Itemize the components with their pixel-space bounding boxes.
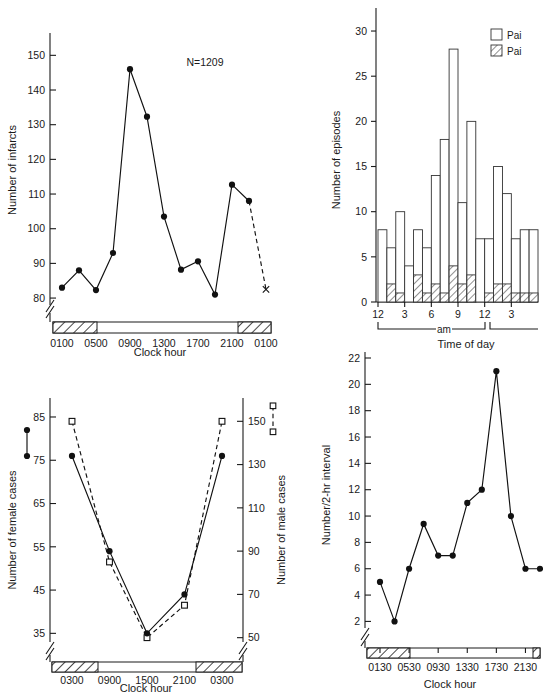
legend-label-1: Pai: [507, 30, 521, 41]
bar-hatched-segment: [511, 293, 520, 302]
y-tick-left: 35: [33, 627, 45, 639]
data-series-cases: [69, 418, 225, 640]
bar: [449, 49, 458, 302]
y-tick: 2: [354, 615, 360, 627]
x-tick: 1700: [186, 337, 210, 349]
data-point-male: [219, 418, 225, 424]
x-tick: 9: [455, 308, 461, 320]
x-tick: 0300: [210, 674, 234, 686]
data-point: [406, 566, 412, 572]
y-tick: 150: [27, 49, 45, 61]
y-tick: 20: [355, 115, 367, 127]
data-point: [493, 368, 499, 374]
data-point-female: [69, 453, 75, 459]
bar-hatched-segment: [485, 293, 494, 302]
y-tick: 8: [354, 536, 360, 548]
x-tick: 0300: [60, 674, 84, 686]
data-point-male: [69, 418, 75, 424]
x-tick: 0530: [397, 661, 421, 673]
y-tick: 90: [33, 257, 45, 269]
bar: [511, 239, 520, 302]
bar-hatched-segment: [467, 275, 476, 302]
data-point: [144, 114, 150, 120]
x-tick: 2100: [173, 674, 197, 686]
panel-infarcts-by-clock-hour: 8090100110120130140150 Number of infarct…: [0, 0, 280, 360]
x-tick: 1330: [456, 661, 480, 673]
x-tick: 2100: [220, 337, 244, 349]
y-axis-title-right: Number of male cases: [275, 474, 287, 585]
bar: [396, 212, 405, 302]
y-axis-title: Number of episodes: [330, 110, 342, 209]
data-point: [464, 500, 470, 506]
panel-cases-by-sex: 354555657585 507090110130150 Number of f…: [0, 370, 290, 696]
y-tick-right: 110: [248, 502, 265, 514]
y-tick: 80: [33, 292, 45, 304]
y-axis-title: Number/2-hr interval: [320, 445, 332, 545]
x-tick: 2130: [514, 661, 538, 673]
bar-hatched-segment: [396, 293, 405, 302]
bar-hatched-segment: [529, 293, 538, 302]
data-point-male: [182, 602, 188, 608]
legend-swatch-hatched: [491, 45, 502, 56]
y-tick-labels: 051015202530: [355, 25, 376, 308]
x-tick: 0900: [98, 674, 122, 686]
data-point: [76, 267, 82, 273]
y-tick: 10: [355, 205, 367, 217]
y-axis-title-left: Number of female cases: [6, 470, 18, 590]
day-night-bar: [367, 648, 540, 658]
y-axis-group: [361, 352, 369, 648]
infarcts-chart-svg: 8090100110120130140150 Number of infarct…: [0, 0, 280, 360]
data-point-female: [181, 591, 187, 597]
y-tick-right: 90: [248, 545, 260, 557]
y-tick: 4: [354, 589, 360, 601]
panel-episodes-by-time-of-day: 051015202530 Number of episodes 12369123…: [280, 0, 543, 360]
bar: [494, 167, 503, 302]
cases-chart-svg: 354555657585 507090110130150 Number of f…: [0, 370, 290, 696]
x-tick: 1730: [485, 661, 509, 673]
data-point: [93, 287, 99, 293]
left-axis-group: [46, 398, 54, 662]
y-tick-left: 55: [33, 541, 45, 553]
x-tick-labels: 12369123: [372, 302, 514, 320]
y-tick: 100: [27, 222, 45, 234]
data-point: [59, 285, 65, 291]
bar: [440, 139, 449, 302]
y-tick: 0: [361, 296, 367, 308]
data-point-female: [144, 630, 150, 636]
y-tick: 20: [348, 378, 360, 390]
data-point: [246, 198, 252, 204]
data-point: [522, 566, 528, 572]
y-axis-title: Number of infarcts: [6, 125, 18, 215]
bar: [378, 230, 387, 302]
y-tick: 15: [355, 160, 367, 172]
day-night-bar: [52, 662, 242, 672]
x-axis-title: Clock hour: [424, 678, 477, 690]
y-tick: 120: [27, 153, 45, 165]
x-tick: 3: [402, 308, 408, 320]
data-point: [537, 566, 543, 572]
x-tick: 0130: [368, 661, 392, 673]
period-label-am: am: [437, 324, 451, 335]
x-tick: 6: [428, 308, 434, 320]
episodes-chart-svg: 051015202530 Number of episodes 12369123…: [280, 0, 543, 360]
x-axis-title: Clock hour: [120, 682, 173, 694]
data-point: [178, 267, 184, 273]
data-point-female: [219, 453, 225, 459]
bar-hatched-segment: [449, 266, 458, 302]
bar-hatched-segment: [440, 293, 449, 302]
y-tick: 30: [355, 25, 367, 37]
y-tick-left: 65: [33, 497, 45, 509]
y-tick-left: 45: [33, 584, 45, 596]
y-tick-right: 70: [248, 588, 260, 600]
data-point: [421, 521, 427, 527]
data-point: [195, 258, 201, 264]
data-point: [391, 618, 397, 624]
legend-swatch-open: [491, 29, 502, 40]
y-tick-left: 85: [33, 411, 45, 423]
day-night-bar: [53, 322, 271, 333]
data-point: [377, 579, 383, 585]
data-series-interval: [377, 368, 543, 624]
bar-hatched-segment: [458, 284, 467, 302]
legend-label-2: Pai: [507, 46, 521, 57]
x-tick: 0500: [84, 337, 108, 349]
